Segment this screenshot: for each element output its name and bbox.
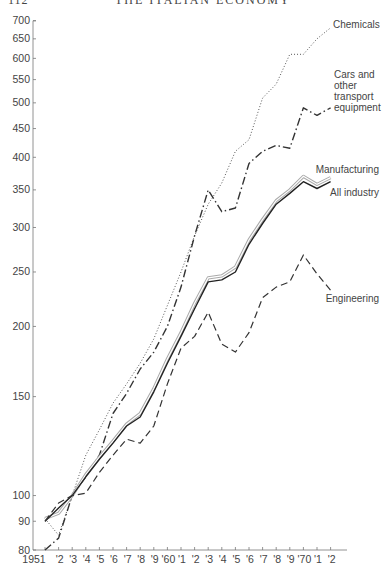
x-tick-label: '6 bbox=[246, 553, 254, 565]
x-tick-label: '4 bbox=[219, 553, 227, 565]
y-tick-label: 600 bbox=[12, 52, 30, 64]
x-tick-label: '1 bbox=[178, 553, 186, 565]
x-tick-label: '3 bbox=[69, 553, 77, 565]
y-tick-label: 250 bbox=[12, 265, 30, 277]
x-tick-label: '2 bbox=[56, 553, 64, 565]
y-tick-label: 350 bbox=[12, 183, 30, 195]
y-tick-label: 300 bbox=[12, 221, 30, 233]
label-all-industry: All industry bbox=[330, 187, 379, 198]
x-tick-label: '7 bbox=[124, 553, 132, 565]
x-tick-label: '8 bbox=[137, 553, 145, 565]
y-tick-label: 450 bbox=[12, 122, 30, 134]
x-tick-label: '2 bbox=[192, 553, 200, 565]
x-tick-label: '6 bbox=[110, 553, 118, 565]
y-tick-label: 650 bbox=[12, 32, 30, 44]
y-tick-label: 100 bbox=[12, 489, 30, 501]
series-manufacturing bbox=[45, 176, 331, 518]
x-tick-label: '3 bbox=[205, 553, 213, 565]
x-tick-label: 1951 bbox=[22, 553, 46, 565]
x-tick-label: '70 bbox=[298, 553, 312, 565]
y-tick-label: 700 bbox=[12, 14, 30, 26]
label-manufacturing: Manufacturing bbox=[316, 164, 379, 175]
series-engineering bbox=[45, 255, 331, 521]
series-cars-and-other-transport-equipment bbox=[45, 108, 331, 550]
x-tick-label: '2 bbox=[328, 553, 336, 565]
x-tick-label: '4 bbox=[83, 553, 91, 565]
y-tick-label: 400 bbox=[12, 151, 30, 163]
x-tick-label: '60 bbox=[162, 553, 176, 565]
label-engineering: Engineering bbox=[326, 293, 379, 304]
x-tick-label: '5 bbox=[96, 553, 104, 565]
y-tick-label: 200 bbox=[12, 320, 30, 332]
x-tick-label: '7 bbox=[260, 553, 268, 565]
x-tick-label: '1 bbox=[314, 553, 322, 565]
series-lines bbox=[45, 28, 331, 550]
series-chemicals bbox=[45, 28, 331, 535]
x-tick-label: '9 bbox=[151, 553, 159, 565]
y-tick-label: 150 bbox=[12, 390, 30, 402]
label-cars-and-other-transport-equipment: Cars andothertransportequipment bbox=[334, 69, 381, 113]
series-labels: ChemicalsCars andothertransportequipment… bbox=[316, 19, 381, 304]
x-tick-label: '5 bbox=[232, 553, 240, 565]
y-tick-label: 90 bbox=[18, 515, 30, 527]
x-tick-label: '8 bbox=[273, 553, 281, 565]
x-tick-label: '9 bbox=[287, 553, 295, 565]
y-tick-label: 500 bbox=[12, 96, 30, 108]
y-tick-label: 550 bbox=[12, 73, 30, 85]
line-chart: 8090100150200250300350400450500550600650… bbox=[0, 0, 389, 572]
label-chemicals: Chemicals bbox=[333, 19, 380, 30]
